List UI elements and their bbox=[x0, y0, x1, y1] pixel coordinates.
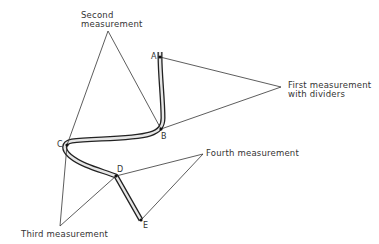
second-measurement-label: Second measurement bbox=[81, 11, 143, 29]
point-label-a: A bbox=[151, 53, 156, 61]
curved-line bbox=[65, 52, 163, 220]
fourth-measurement-label: Fourth measurement bbox=[206, 149, 299, 158]
second-measurement-line2: measurement bbox=[81, 20, 143, 29]
diagram-canvas: A B C D E Second measurement First measu… bbox=[0, 0, 379, 244]
fourth-measurement-line1: Fourth measurement bbox=[206, 149, 299, 158]
fourth-measurement-dividers bbox=[116, 154, 203, 220]
third-measurement-label: Third measurement bbox=[21, 230, 108, 239]
first-measurement-dividers bbox=[160, 57, 281, 129]
first-measurement-label: First measurement with dividers bbox=[288, 81, 371, 99]
third-measurement-line1: Third measurement bbox=[21, 230, 108, 239]
diagram-graphic bbox=[0, 0, 379, 244]
second-measurement-dividers bbox=[67, 31, 161, 145]
point-label-b: B bbox=[161, 133, 167, 141]
point-label-d: D bbox=[117, 166, 123, 174]
point-label-c: C bbox=[57, 141, 63, 149]
first-measurement-line2: with dividers bbox=[288, 90, 371, 99]
point-label-e: E bbox=[143, 222, 148, 230]
